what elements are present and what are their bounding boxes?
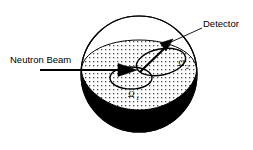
omega1-symbol: Ω <box>128 89 135 99</box>
neutron-sphere-figure: Neutron Beam Detector Ω 1 Ω 2 <box>0 0 253 150</box>
omega1-subscript: 1 <box>136 94 139 101</box>
neutron-beam-label: Neutron Beam <box>10 54 71 65</box>
figure-canvas: Neutron Beam Detector Ω 1 Ω 2 <box>0 0 253 150</box>
detector-label: Detector <box>203 18 239 29</box>
omega2-symbol: Ω <box>178 58 185 68</box>
